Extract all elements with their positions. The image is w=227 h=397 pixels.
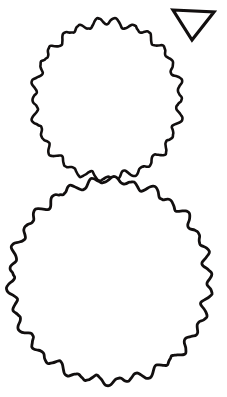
drawing-canvas	[0, 0, 227, 397]
line-art-drawing	[0, 0, 227, 397]
